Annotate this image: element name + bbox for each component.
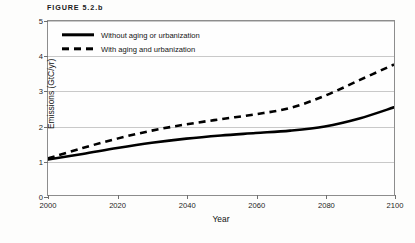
chart-curves <box>48 21 394 195</box>
x-tick-label-2060: 2060 <box>248 201 265 210</box>
x-tick-label-2040: 2040 <box>179 201 196 210</box>
figure-container: FIGURE 5.2.b 5 4 3 2 1 0 Emissions (GtC/… <box>0 0 415 243</box>
x-tick-mark-2080 <box>326 195 327 199</box>
x-tick-mark-2060 <box>257 195 258 199</box>
x-tick-mark-2020 <box>118 195 119 199</box>
x-axis-title: Year <box>213 214 230 224</box>
y-tick-label-2: 2 <box>39 122 43 131</box>
y-tick-label-5: 5 <box>39 17 43 26</box>
x-tick-mark-2100 <box>395 195 396 199</box>
y-tick-label-3: 3 <box>39 87 43 96</box>
x-tick-mark-2040 <box>187 195 188 199</box>
y-tick-label-4: 4 <box>39 52 43 61</box>
series-line-with-aging <box>48 65 394 159</box>
x-tick-label-2080: 2080 <box>318 201 335 210</box>
y-tick-label-1: 1 <box>39 157 43 166</box>
figure-title: FIGURE 5.2.b <box>47 3 103 12</box>
x-tick-label-2100: 2100 <box>387 201 404 210</box>
series-line-without-aging <box>48 107 394 159</box>
x-tick-label-2020: 2020 <box>109 201 126 210</box>
x-tick-label-2000: 2000 <box>40 201 57 210</box>
plot-area: 5 4 3 2 1 0 Emissions (GtC/yr) 2000 2020… <box>47 20 395 196</box>
x-tick-mark-2000 <box>48 195 49 199</box>
